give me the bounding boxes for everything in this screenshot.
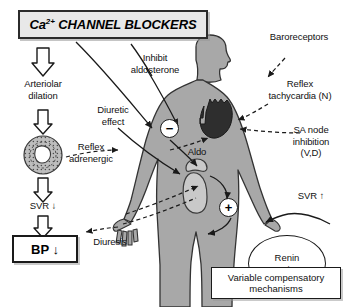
minus-badge: − (160, 119, 179, 138)
label-compensatory-mechanisms: Variable compensatory mechanisms (228, 272, 324, 295)
title-box: Ca2+ CHANNEL BLOCKERS (18, 10, 208, 39)
label-bp-down: BP ↓ (31, 242, 59, 257)
arrow-tachycardia-to-heart (238, 104, 268, 120)
arrow-baroreceptors-to-tachycardia (268, 58, 285, 77)
label-diuresis: Diuresis (82, 236, 138, 248)
label-inhibit-aldosterone: Inhibit aldosterone (122, 52, 188, 75)
arrow-renin-to-svr-up (288, 213, 330, 224)
label-reflex-adrenergic: Reflex adrenergic (58, 141, 124, 164)
label-aldo: Aldo (178, 146, 216, 158)
compensatory-mechanisms-box: Variable compensatory mechanisms (211, 267, 341, 299)
label-baroreceptors: Baroreceptors (256, 31, 342, 43)
title-text: Ca2+ CHANNEL BLOCKERS (29, 17, 196, 32)
label-reflex-tachycardia: Reflex tachycardia (N) (258, 78, 342, 101)
plus-badge: + (219, 198, 238, 217)
calcium-channel-blockers-diagram: Ca2+ CHANNEL BLOCKERS Arteriolar dilatio… (0, 0, 345, 307)
arrow-vessel-to-svr (34, 178, 52, 202)
arrow-title-to-dilation (32, 48, 54, 76)
label-svr-up: SVR ↑ (284, 190, 338, 202)
label-diuretic-effect: Diuretic effect (84, 104, 142, 127)
adrenal-and-kidney-organs (183, 159, 207, 213)
label-sa-node-inhibition: SA node inhibition (V,D) (280, 124, 342, 159)
bp-box: BP ↓ (12, 235, 78, 263)
arrow-dilation-to-vessel (34, 110, 52, 134)
blood-vessel-cross-section-icon (24, 136, 62, 174)
label-svr-down: SVR ↓ (14, 200, 72, 212)
label-arteriolar-dilation: Arteriolar dilation (4, 78, 82, 101)
